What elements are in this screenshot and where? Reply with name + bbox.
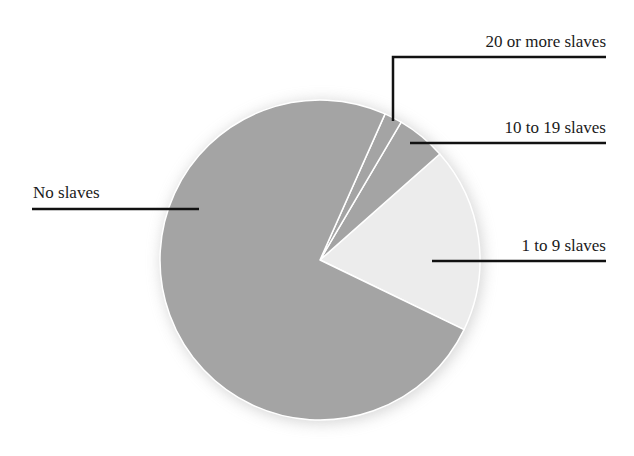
label-no-slaves: No slaves (33, 184, 100, 201)
leader-twenty-plus (393, 57, 606, 121)
pie-chart (0, 0, 634, 456)
label-twenty-plus: 20 or more slaves (486, 33, 606, 50)
label-ten-to-nineteen: 10 to 19 slaves (504, 119, 606, 136)
label-one-to-nine: 1 to 9 slaves (521, 237, 606, 254)
